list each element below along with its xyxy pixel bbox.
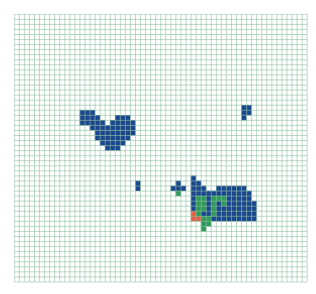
small-cluster-green [176, 191, 181, 196]
faint-caption [0, 284, 316, 294]
pixel-grid-canvas [14, 14, 308, 283]
grid-svg [14, 14, 308, 283]
